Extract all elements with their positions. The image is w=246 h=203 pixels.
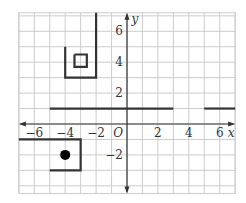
x-tick-label: 2 (154, 126, 162, 140)
x-axis-label: x (228, 126, 235, 140)
x-tick-label: −4 (56, 126, 74, 140)
origin-label: O (113, 126, 123, 140)
y-axis-arrow-down-icon (125, 187, 130, 194)
y-tick-label: 4 (115, 55, 123, 69)
x-tick-label: 4 (185, 126, 193, 140)
coordinate-graph: −6−4−2246642−2Oxy (0, 0, 246, 203)
x-tick-label: −6 (25, 126, 43, 140)
y-axis-label: y (131, 12, 139, 26)
filled-dot (60, 150, 70, 160)
x-tick-label: 6 (216, 126, 224, 140)
y-tick-label: −2 (105, 148, 123, 162)
y-tick-label: 6 (115, 24, 123, 38)
y-tick-label: 2 (115, 86, 123, 100)
axes (19, 13, 235, 194)
x-tick-label: −2 (87, 126, 105, 140)
